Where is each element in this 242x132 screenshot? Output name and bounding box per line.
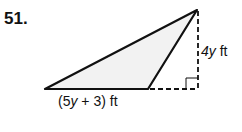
- right-angle-marker: [186, 78, 198, 89]
- base-open: (5: [58, 93, 70, 109]
- height-var: 4y: [201, 43, 216, 59]
- base-label: (5y + 3) ft: [58, 93, 118, 109]
- height-label: 4y ft: [201, 43, 227, 59]
- base-rest: + 3) ft: [77, 93, 117, 109]
- height-unit: ft: [216, 43, 228, 59]
- triangle: [45, 10, 197, 89]
- triangle-figure: [0, 0, 242, 132]
